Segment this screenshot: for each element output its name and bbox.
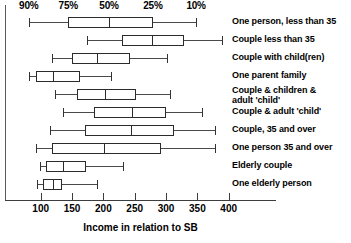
upper-whisker-cap <box>167 54 168 63</box>
lower-whisker <box>52 58 72 59</box>
category-label: Elderly couple <box>232 161 292 171</box>
x-tick-400 <box>229 193 230 201</box>
x-tick-label-150: 150 <box>64 203 81 215</box>
lower-whisker-cap <box>87 36 88 45</box>
box-plot-chart: 90%75%50%25%10% 100150200250300350400 On… <box>0 0 351 243</box>
lower-whisker-cap <box>29 72 30 81</box>
percentile-label-50: 50% <box>99 0 118 12</box>
box-iqr <box>52 143 161 154</box>
x-tick-250 <box>135 193 136 201</box>
lower-whisker-cap <box>40 162 41 171</box>
upper-whisker <box>184 40 222 41</box>
lower-whisker <box>29 76 36 77</box>
upper-whisker-cap <box>196 18 197 27</box>
upper-whisker-cap <box>215 126 216 135</box>
category-label: One parent family <box>232 71 306 81</box>
lower-whisker-cap <box>63 108 64 117</box>
lower-whisker <box>29 22 68 23</box>
box-iqr <box>46 161 86 172</box>
lower-whisker <box>50 130 85 131</box>
box-plot-row <box>0 68 230 86</box>
upper-whisker-cap <box>97 180 98 189</box>
upper-whisker-cap <box>215 144 216 153</box>
box-plot-row <box>0 86 230 104</box>
lower-whisker <box>36 148 52 149</box>
lower-whisker-cap <box>29 18 30 27</box>
x-tick-200 <box>103 193 104 201</box>
box-plot-row <box>0 104 230 122</box>
category-label: Couple & children & adult 'child' <box>232 86 316 105</box>
lower-whisker <box>63 112 94 113</box>
median-line <box>53 71 54 82</box>
box-plot-row <box>0 50 230 68</box>
upper-whisker <box>62 184 97 185</box>
x-tick-100 <box>41 193 42 201</box>
percentile-label-10: 10% <box>186 0 205 12</box>
x-tick-label-400: 400 <box>220 203 237 215</box>
upper-whisker <box>130 58 167 59</box>
percentile-axis: 90%75%50%25%10% <box>0 0 230 14</box>
upper-whisker-cap <box>170 90 171 99</box>
x-axis-line <box>5 200 276 201</box>
upper-whisker <box>161 148 215 149</box>
x-tick-label-300: 300 <box>158 203 175 215</box>
median-line <box>105 89 106 100</box>
lower-whisker-cap <box>50 126 51 135</box>
lower-whisker-cap <box>52 54 53 63</box>
upper-whisker <box>86 166 123 167</box>
category-label: Couple, 35 and over <box>232 125 316 135</box>
upper-whisker-cap <box>123 162 124 171</box>
lower-whisker-cap <box>55 90 56 99</box>
percentile-label-90: 90% <box>19 0 38 12</box>
x-axis-title: Income in relation to SB <box>5 222 276 234</box>
median-line <box>97 53 98 64</box>
percentile-label-75: 75% <box>59 0 78 12</box>
box-plot-row <box>0 32 230 50</box>
box-iqr <box>85 125 174 136</box>
box-plot-row <box>0 122 230 140</box>
category-label: Couple less than 35 <box>232 35 315 45</box>
upper-whisker-cap <box>222 36 223 45</box>
category-label: One elderly person <box>232 179 312 189</box>
lower-whisker <box>55 94 77 95</box>
median-line <box>104 143 105 154</box>
category-label: One person 35 and over <box>232 143 332 153</box>
box-iqr <box>94 107 166 118</box>
upper-whisker <box>174 130 215 131</box>
box-iqr <box>77 89 136 100</box>
median-line <box>53 179 54 190</box>
upper-whisker <box>153 22 196 23</box>
category-label: Couple & adult 'child' <box>232 107 321 117</box>
upper-whisker-cap <box>111 72 112 81</box>
x-tick-label-350: 350 <box>189 203 206 215</box>
median-line <box>63 161 64 172</box>
median-line <box>132 107 133 118</box>
category-label: One person, less than 35 <box>232 17 336 27</box>
x-tick-label-100: 100 <box>32 203 49 215</box>
x-tick-label-200: 200 <box>95 203 112 215</box>
box-plot-row <box>0 158 230 176</box>
median-line <box>131 125 132 136</box>
x-tick-label-250: 250 <box>126 203 143 215</box>
lower-whisker <box>87 40 122 41</box>
median-line <box>152 35 153 46</box>
lower-whisker-cap <box>36 144 37 153</box>
upper-whisker <box>136 94 170 95</box>
upper-whisker-cap <box>202 108 203 117</box>
box-plot-row <box>0 176 230 194</box>
box-plot-row <box>0 140 230 158</box>
upper-whisker <box>80 76 111 77</box>
lower-whisker-cap <box>37 180 38 189</box>
box-plot-row <box>0 14 230 32</box>
x-tick-300 <box>166 193 167 201</box>
percentile-label-25: 25% <box>143 0 162 12</box>
upper-whisker <box>166 112 202 113</box>
box-iqr <box>72 53 130 64</box>
category-label: Couple with child(ren) <box>232 53 324 63</box>
box-iqr <box>36 71 80 82</box>
x-tick-150 <box>72 193 73 201</box>
box-iqr <box>68 17 153 28</box>
median-line <box>109 17 110 28</box>
x-tick-350 <box>197 193 198 201</box>
